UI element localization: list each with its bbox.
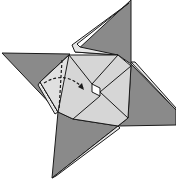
origami-diagram bbox=[0, 0, 176, 181]
